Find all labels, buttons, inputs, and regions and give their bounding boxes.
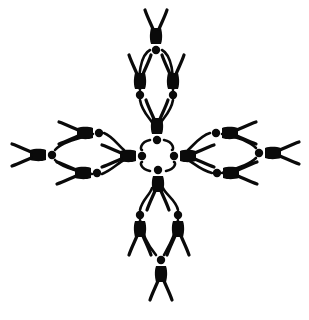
- figure-right-top: [212, 122, 256, 144]
- figure-center-bottom: [147, 166, 169, 210]
- linking-arms: [55, 50, 256, 255]
- figure-right-tip: [255, 142, 299, 164]
- figure-top-right: [162, 55, 184, 99]
- figure-top-tip: [145, 10, 167, 54]
- illustration-canvas: [0, 0, 309, 320]
- figure-right-bottom: [213, 162, 257, 184]
- right-arm: [212, 122, 299, 184]
- figure-center-top: [146, 100, 168, 144]
- left-arm: [12, 122, 103, 184]
- figure-top-left: [129, 55, 151, 99]
- central-ring: [102, 100, 214, 210]
- human-cross-illustration: [0, 0, 309, 320]
- figure-bottom-tip: [150, 256, 172, 300]
- figure-left-bottom: [57, 162, 101, 184]
- figure-left-tip: [12, 144, 56, 166]
- bottom-arm: [129, 211, 189, 300]
- figure-bottom-left: [129, 211, 151, 255]
- figure-left-top: [59, 122, 103, 144]
- top-arm: [129, 10, 184, 99]
- figure-bottom-right: [167, 211, 189, 255]
- figure-center-left: [102, 145, 146, 167]
